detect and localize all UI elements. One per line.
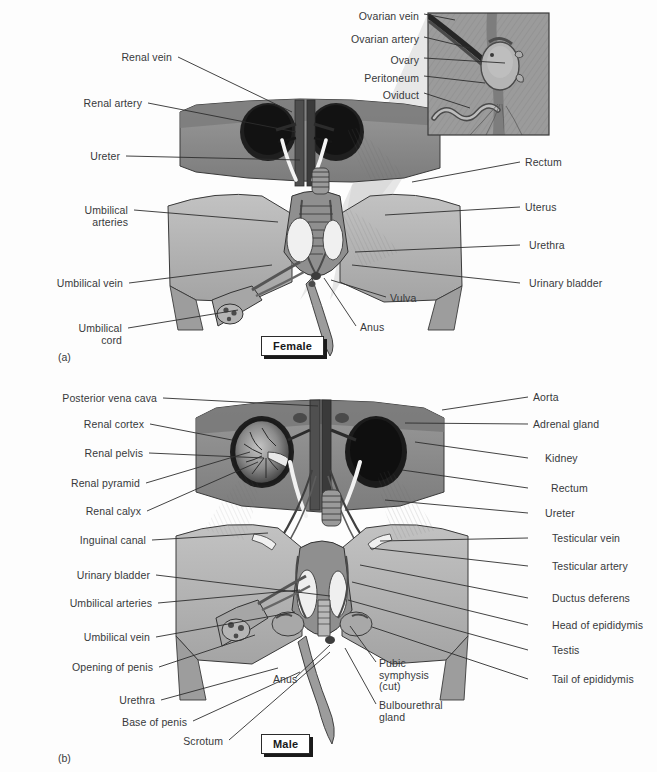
label-female-vulva: Vulva	[390, 293, 416, 305]
label-inset-ovarian-vein: Ovarian vein	[359, 11, 419, 23]
label-male-testicular-artery: Testicular artery	[552, 561, 628, 573]
label-male-ureter: Ureter	[545, 508, 575, 520]
label-male-renal-pyramid: Renal pyramid	[71, 478, 140, 490]
label-inset-ovarian-artery: Ovarian artery	[351, 34, 419, 46]
label-female-umbilical-cord: Umbilical cord	[79, 323, 123, 346]
label-male-renal-cortex: Renal cortex	[84, 419, 144, 431]
sex-label-male: Male	[261, 734, 310, 754]
panel-letter-a: (a)	[58, 351, 71, 363]
label-male-anus: Anus	[273, 674, 297, 686]
anatomy-figure: Ovarian veinOvarian arteryOvaryPeritoneu…	[0, 0, 657, 772]
label-female-urinary-bladder: Urinary bladder	[529, 278, 602, 290]
label-male-testicular-vein: Testicular vein	[552, 533, 620, 545]
label-female-umbilical-vein: Umbilical vein	[57, 278, 123, 290]
label-male-ductus-deferens: Ductus deferens	[552, 593, 630, 605]
label-male-umbilical-vein: Umbilical vein	[84, 632, 150, 644]
label-male-rectum: Rectum	[551, 483, 588, 495]
label-female-anus: Anus	[360, 322, 384, 334]
label-male-opening-of-penis: Opening of penis	[72, 662, 153, 674]
label-male-inguinal-canal: Inguinal canal	[80, 535, 146, 547]
label-inset-oviduct: Oviduct	[383, 90, 419, 102]
label-inset-ovary: Ovary	[390, 55, 419, 67]
label-male-tail-of-epididymis: Tail of epididymis	[552, 674, 634, 686]
label-male-kidney: Kidney	[545, 453, 578, 465]
label-inset-peritoneum: Peritoneum	[364, 73, 419, 85]
sex-label-female: Female	[261, 336, 324, 356]
label-male-pubic-symphysis-cut: Pubic symphysis (cut)	[379, 658, 429, 693]
label-male-umbilical-arteries: Umbilical arteries	[70, 598, 152, 610]
label-male-adrenal-gland: Adrenal gland	[533, 419, 599, 431]
label-female-ureter: Ureter	[90, 151, 120, 163]
label-female-uterus: Uterus	[525, 202, 557, 214]
panel-letter-b: (b)	[58, 752, 71, 764]
label-male-urinary-bladder: Urinary bladder	[77, 570, 150, 582]
label-male-aorta: Aorta	[533, 392, 559, 404]
label-male-bulbourethral-gland: Bulbourethral gland	[379, 700, 443, 723]
label-male-scrotum: Scrotum	[183, 736, 223, 748]
label-female-renal-artery: Renal artery	[84, 98, 142, 110]
label-male-base-of-penis: Base of penis	[122, 717, 187, 729]
label-male-renal-pelvis: Renal pelvis	[85, 448, 143, 460]
label-female-urethra: Urethra	[529, 240, 565, 252]
label-male-renal-calyx: Renal calyx	[86, 506, 141, 518]
label-female-umbilical-arteries: Umbilical arteries	[85, 205, 129, 228]
label-male-testis: Testis	[552, 645, 579, 657]
label-female-renal-vein: Renal vein	[121, 52, 172, 64]
label-female-rectum: Rectum	[525, 157, 562, 169]
label-male-head-of-epididymis: Head of epididymis	[552, 620, 643, 632]
label-male-urethra: Urethra	[119, 695, 155, 707]
ovary-inset-art	[428, 13, 549, 135]
label-male-posterior-vena-cava: Posterior vena cava	[62, 393, 157, 405]
